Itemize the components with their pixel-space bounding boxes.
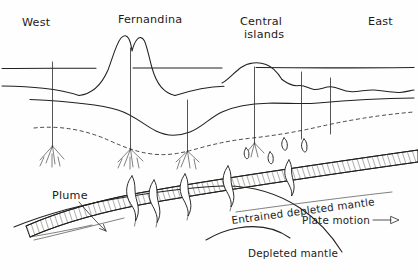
- label-depleted-mantle: Depleted mantle: [248, 247, 338, 259]
- label-west: West: [22, 16, 51, 29]
- plume-cross-section-figure: West Fernandina Central islands East Plu…: [0, 0, 418, 280]
- label-layer: West Fernandina Central islands East Plu…: [0, 0, 418, 280]
- label-plume: Plume: [52, 189, 88, 202]
- label-fernandina: Fernandina: [118, 13, 182, 26]
- label-central-islands-line1: Central: [240, 15, 282, 28]
- label-central-islands-line2: islands: [244, 28, 284, 41]
- label-east: East: [368, 15, 393, 28]
- label-plate-motion: Plate motion: [302, 214, 370, 226]
